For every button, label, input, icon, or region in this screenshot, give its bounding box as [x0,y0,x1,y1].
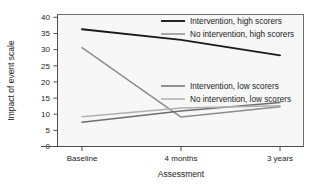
y-ticks [54,17,58,146]
legend-label-no-intervention-high: No intervention, high scorers [190,30,294,39]
legend-label-intervention-low: Intervention, low scorers [190,82,279,91]
y-axis: 0 5 10 15 20 25 30 35 40 Impact of event… [6,13,58,151]
line-chart: 0 5 10 15 20 25 30 35 40 Impact of event… [0,0,312,191]
y-axis-title: Impact of event scale [6,40,16,121]
legend-label-no-intervention-low: No intervention, low scorers [190,95,291,104]
x-axis: Baseline 4 months 3 years Assessment [41,147,304,180]
chart-figure: 0 5 10 15 20 25 30 35 40 Impact of event… [0,0,312,191]
legend-label-intervention-high: Intervention, high scorers [190,17,282,26]
y-tick-label-35: 35 [41,29,50,38]
y-tick-label-25: 25 [41,62,50,71]
y-tick-label-10: 10 [41,110,50,119]
y-tick-label-15: 15 [41,94,50,103]
x-axis-title: Assessment [158,169,205,179]
x-tick-label-4-months: 4 months [165,154,198,163]
y-tick-label-40: 40 [41,13,50,22]
y-tick-label-20: 20 [41,78,50,87]
y-tick-label-5: 5 [46,126,51,135]
y-tick-label-30: 30 [41,45,50,54]
x-tick-label-baseline: Baseline [67,154,98,163]
x-tick-label-3-years: 3 years [267,154,293,163]
